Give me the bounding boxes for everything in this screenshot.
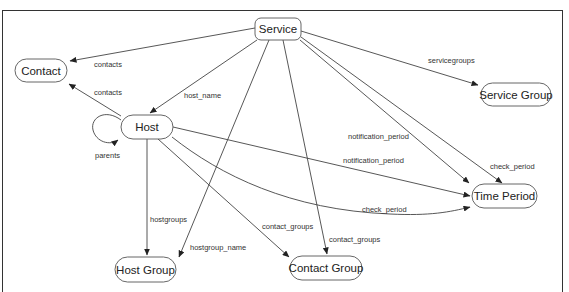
edge-host-parents (93, 115, 121, 143)
node-label: Host Group (116, 264, 175, 276)
node-label: Time Period (474, 190, 536, 202)
edge-label: check_period (362, 205, 407, 214)
node-service: Service (255, 18, 301, 40)
edge-label: hostgroups (150, 215, 187, 224)
edge-host-timeperiod-notification (173, 127, 470, 196)
edge-service-contact (70, 28, 255, 61)
edge-service-host (150, 40, 257, 113)
edge-label: host_name (184, 91, 221, 100)
edge-label: servicegroups (428, 56, 475, 65)
node-host-group: Host Group (115, 257, 176, 282)
node-label: Contact Group (289, 262, 364, 274)
node-label: Contact (21, 65, 61, 77)
edge-label: notification_period (348, 132, 409, 141)
edge-label: hostgroup_name (190, 243, 246, 252)
edge-label: check_period (490, 162, 535, 171)
edge-host-contactgroup (158, 139, 289, 257)
node-label: Service (259, 23, 297, 35)
node-label: Host (135, 121, 159, 133)
edge-label: contacts (94, 60, 122, 69)
node-time-period: Time Period (472, 184, 537, 208)
node-contact-group: Contact Group (289, 256, 364, 280)
edge-service-hostgroup (179, 40, 269, 257)
node-service-group: Service Group (479, 83, 553, 106)
node-label: Service Group (479, 89, 553, 101)
edge-label: parents (95, 151, 120, 160)
node-contact: Contact (15, 59, 67, 82)
edge-label: notification_period (343, 156, 404, 165)
edge-label: contact_groups (262, 222, 314, 231)
edge-label: contacts (94, 88, 122, 97)
edge-host-timeperiod-check (172, 137, 470, 215)
node-host: Host (121, 115, 173, 139)
edge-label: contact_groups (329, 235, 381, 244)
